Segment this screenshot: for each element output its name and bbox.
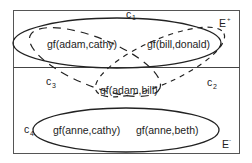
region-label-negative-text: E bbox=[222, 138, 229, 150]
cluster-label-c3-text: c bbox=[46, 75, 51, 87]
cluster-label-c2-sub: 2 bbox=[213, 83, 217, 90]
region-label-positive-sup: + bbox=[227, 16, 231, 22]
cluster-label-c1-text: c bbox=[126, 8, 131, 20]
cluster-label-c2: c 2 bbox=[207, 76, 217, 90]
cluster-label-c4: c 4 bbox=[24, 123, 34, 137]
region-label-positive: E + bbox=[219, 16, 231, 29]
diagram-canvas: E + E - c 1 c 2 c 3 c 4 gf(adam,cathy) g… bbox=[0, 0, 252, 163]
fact-anne-beth: gf(anne,beth) bbox=[136, 124, 198, 136]
cluster-label-c3: c 3 bbox=[46, 75, 56, 89]
fact-adam-cathy: gf(adam,cathy) bbox=[47, 38, 117, 50]
region-label-positive-text: E bbox=[219, 17, 226, 29]
fact-anne-cathy: gf(anne,cathy) bbox=[53, 124, 120, 136]
fact-adam-bill: gf(adam,bill) bbox=[100, 84, 158, 96]
cluster-label-c4-sub: 4 bbox=[30, 130, 34, 137]
cluster-label-c1-sub: 1 bbox=[132, 14, 136, 21]
cluster-label-c2-text: c bbox=[207, 76, 212, 88]
region-label-negative: E - bbox=[222, 137, 231, 150]
fact-bill-donald: gf(bill,donald) bbox=[147, 38, 210, 50]
cluster-label-c1: c 1 bbox=[126, 8, 136, 21]
region-label-negative-sup: - bbox=[229, 137, 231, 143]
cluster-label-c4-text: c bbox=[24, 123, 29, 135]
cluster-label-c3-sub: 3 bbox=[52, 82, 56, 89]
